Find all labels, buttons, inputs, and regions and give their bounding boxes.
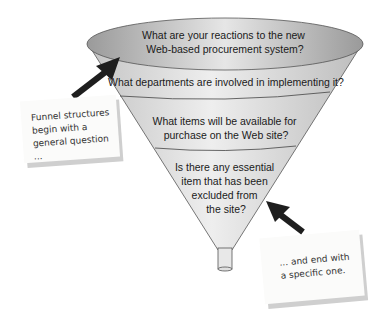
note-left: Funnel structures begin with a general q… <box>20 95 120 164</box>
note-right: ... and end with a specific one. <box>259 230 364 304</box>
arrow-icon-right <box>266 201 303 232</box>
question-2: What departments are involved in impleme… <box>108 76 344 88</box>
arrow-icon-left <box>73 57 120 97</box>
note-left-text: Funnel structures begin with a general q… <box>31 106 120 164</box>
funnel-body <box>88 44 362 250</box>
note-right-text: ... and end with a specific one. <box>279 251 351 283</box>
funnel-spout <box>218 248 232 269</box>
